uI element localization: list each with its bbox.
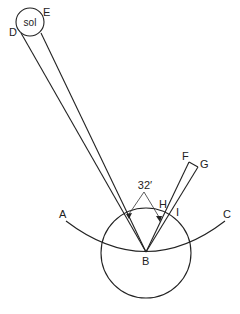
label-A: A: [59, 208, 67, 220]
earth-circle: [101, 208, 191, 298]
label-I: I: [176, 206, 179, 218]
horizon-arc-ABC: [66, 221, 225, 252]
ray-F-to-B: [146, 162, 189, 252]
label-F: F: [182, 150, 189, 162]
label-E: E: [43, 6, 50, 18]
label-B: B: [142, 255, 149, 267]
label-H: H: [159, 198, 167, 210]
label-D: D: [9, 26, 17, 38]
angle-label: 32′: [138, 179, 152, 191]
sun-angle-diagram: sol D E F G A C B 32′ H I: [0, 0, 240, 314]
angle-indicator-left: [129, 192, 144, 214]
ray-G-to-B: [146, 167, 198, 252]
ray-D-to-B: [21, 33, 146, 252]
edge-F-G: [189, 162, 198, 167]
label-G: G: [200, 158, 209, 170]
label-C: C: [223, 208, 231, 220]
angle-indicator-right: [144, 192, 159, 217]
sun-label: sol: [24, 17, 37, 28]
ray-E-to-B: [41, 33, 146, 252]
